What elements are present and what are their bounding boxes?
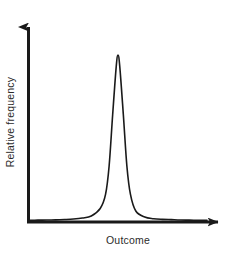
distribution-curve (29, 55, 207, 220)
distribution-plot (0, 0, 246, 255)
chart-figure: Relative frequency Outcome (0, 0, 246, 255)
y-axis-label: Relative frequency (4, 77, 16, 168)
x-axis-label: Outcome (106, 234, 150, 246)
